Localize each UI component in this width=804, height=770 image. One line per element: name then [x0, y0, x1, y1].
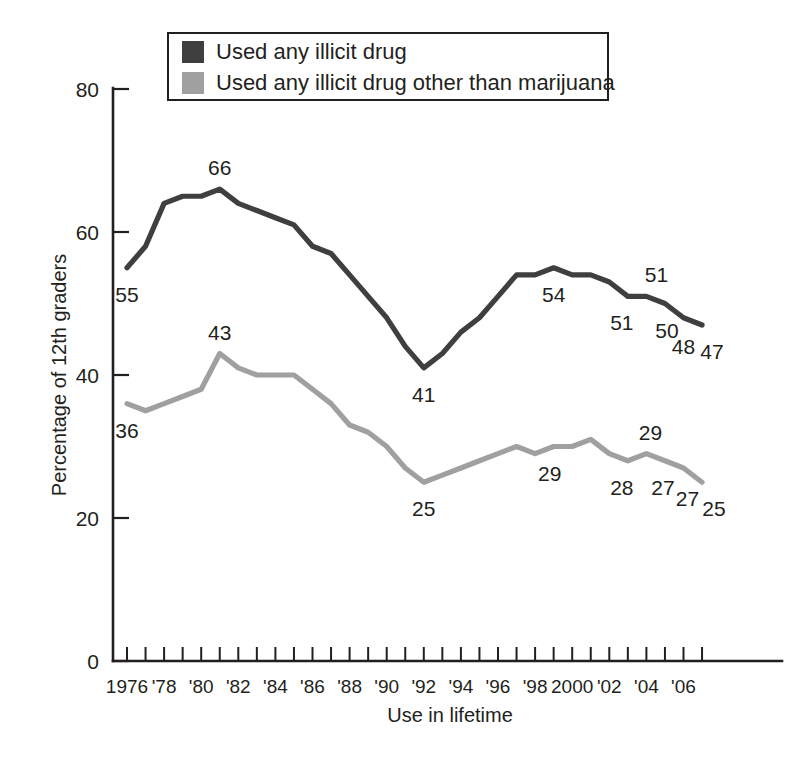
data-label: 48 [672, 335, 695, 358]
y-axis-title: Percentage of 12th graders [48, 254, 70, 496]
data-label: 25 [702, 497, 725, 520]
data-labels-group: 556641545151504847364325292829272725 [115, 156, 725, 520]
x-tick-label: '78 [152, 676, 177, 697]
x-tick-label: 2000 [551, 676, 593, 697]
data-label: 29 [639, 421, 662, 444]
x-tick-label: '96 [486, 676, 511, 697]
y-axis-ticks [113, 89, 129, 661]
x-tick-label: '02 [597, 676, 622, 697]
x-tick-label: '84 [263, 676, 288, 697]
data-label: 29 [538, 462, 561, 485]
x-axis-title: Use in lifetime [387, 704, 513, 726]
data-label: 66 [208, 156, 231, 179]
x-tick-label: '80 [189, 676, 214, 697]
x-tick-label: '04 [634, 676, 659, 697]
y-tick-label: 0 [87, 650, 99, 673]
y-tick-label: 20 [76, 507, 99, 530]
x-tick-label: '98 [523, 676, 548, 697]
data-label: 41 [412, 383, 435, 406]
series-line-light [127, 354, 702, 483]
data-label: 27 [651, 476, 674, 499]
x-tick-label: '90 [374, 676, 399, 697]
chart-container: 020406080 1976'78'80'82'84'86'88'90'92'9… [0, 0, 804, 770]
x-axis-tick-labels: 1976'78'80'82'84'86'88'90'92'94'96'98200… [106, 676, 696, 697]
data-label: 25 [412, 497, 435, 520]
x-axis-ticks [127, 647, 702, 661]
legend-swatch-dark [182, 41, 204, 63]
data-label: 51 [610, 311, 633, 334]
x-tick-label: '92 [411, 676, 436, 697]
x-tick-label: '86 [300, 676, 325, 697]
data-label: 47 [700, 340, 723, 363]
legend-swatch-light [182, 72, 204, 94]
legend-label-light: Used any illicit drug other than marijua… [216, 70, 615, 95]
data-label: 36 [115, 419, 138, 442]
y-tick-label: 60 [76, 221, 99, 244]
x-tick-label: '88 [337, 676, 362, 697]
line-chart: 020406080 1976'78'80'82'84'86'88'90'92'9… [0, 0, 804, 770]
legend-label-dark: Used any illicit drug [216, 39, 407, 64]
x-tick-label: 1976 [106, 676, 148, 697]
y-tick-label: 80 [76, 78, 99, 101]
data-label: 27 [676, 487, 699, 510]
data-label: 43 [208, 321, 231, 344]
x-tick-label: '82 [226, 676, 251, 697]
data-label: 51 [645, 263, 668, 286]
x-tick-label: '06 [671, 676, 696, 697]
data-label: 54 [542, 283, 566, 306]
y-tick-label: 40 [76, 364, 99, 387]
y-axis-tick-labels: 020406080 [76, 78, 99, 673]
data-label: 55 [115, 283, 138, 306]
x-tick-label: '94 [449, 676, 474, 697]
chart-legend: Used any illicit drug Used any illicit d… [168, 33, 615, 100]
data-label: 28 [610, 476, 633, 499]
